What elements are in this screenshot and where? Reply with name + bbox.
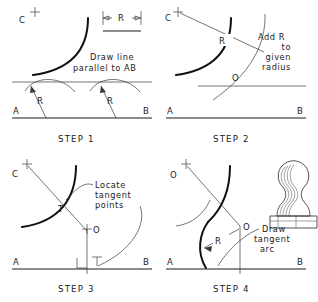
given-arc [22, 166, 76, 227]
note-line-3: given [265, 52, 291, 62]
leader-to-line-tangent [98, 206, 142, 266]
label-point-a: A [13, 106, 19, 116]
enlarged-arc [213, 14, 265, 100]
label-point-c: C [19, 15, 25, 25]
label-point-b: B [143, 257, 149, 267]
label-point-o-upper: O [170, 170, 177, 180]
note-step-2: Add R to given radius [258, 32, 291, 72]
label-radius: R [215, 236, 221, 246]
step-label-2: STEP 2 [213, 134, 250, 144]
label-point-a: A [167, 257, 173, 267]
note-line-4: radius [262, 62, 291, 72]
center-mark-c [22, 159, 32, 169]
note-step-1: Draw line parallel to AB [73, 52, 137, 73]
construction-arc-remnant [176, 200, 210, 226]
note-line-2: tangent [95, 190, 131, 200]
panel-step-1: C R Draw line parallel to AB R [12, 7, 152, 144]
label-radius-left: R [37, 96, 43, 106]
radius-construction-line [180, 13, 264, 52]
note-step-3: Locate tangent points [66, 180, 142, 266]
result-object-stamp [270, 161, 317, 228]
label-tangent-point-arc: T [57, 204, 64, 214]
radius-leader: R [204, 229, 239, 252]
label-point-a: A [13, 257, 19, 267]
label-point-a: A [167, 106, 173, 116]
note-line-2: tangent [254, 234, 290, 244]
note-line-3: points [95, 200, 124, 210]
label-point-c: C [165, 13, 171, 23]
panel-step-3: C T O Locate tangent points A B [12, 159, 152, 294]
given-arc [176, 18, 231, 75]
note-line-3: arc [260, 244, 275, 254]
radius-gauge: R [103, 11, 141, 31]
c-to-o-line [28, 166, 87, 231]
label-point-o-center: O [243, 222, 250, 232]
label-radius-gauge: R [118, 13, 124, 23]
note-line-2: parallel to AB [73, 63, 137, 73]
panel-step-2: C R Add R to given radius O A B STEP 2 [165, 7, 306, 144]
center-mark-c [173, 7, 183, 17]
right-angle-symbol [77, 258, 87, 268]
note-line-1: Draw [262, 224, 286, 234]
note-line-2: to [282, 42, 291, 52]
step-label-4: STEP 4 [213, 284, 250, 294]
step-label-1: STEP 1 [58, 134, 95, 144]
tangent-arc [200, 222, 208, 268]
note-line-1: Draw line [90, 52, 134, 62]
label-radius: R [219, 36, 225, 46]
step-label-3: STEP 3 [58, 284, 95, 294]
note-line-1: Locate [95, 180, 126, 190]
note-line-1: Add R [258, 32, 285, 42]
label-point-c: C [12, 169, 18, 179]
label-point-b: B [143, 106, 149, 116]
label-point-b: B [297, 257, 303, 267]
label-point-o: O [232, 73, 239, 83]
label-radius-right: R [107, 96, 113, 106]
center-mark-o-upper [181, 159, 191, 169]
label-point-o: O [93, 225, 100, 235]
center-mark-c [30, 7, 40, 17]
swing-arc-right [90, 79, 140, 92]
drawing-sheet: C R Draw line parallel to AB R [0, 0, 318, 302]
panel-step-4: O O R Draw tangent arc [166, 159, 317, 294]
label-point-b: B [297, 106, 303, 116]
